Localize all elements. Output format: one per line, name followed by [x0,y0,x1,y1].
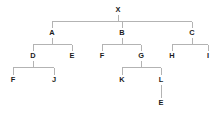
tree-node-e-n5[interactable]: E [70,51,75,60]
tree-node-l-n13[interactable]: L [159,75,164,84]
tree-node-e-n14[interactable]: E [159,98,164,107]
tree-node-b-n2[interactable]: B [119,28,124,37]
tree-node-j-n11[interactable]: J [52,75,56,84]
edges-layer [13,15,208,99]
tree-node-i-n9[interactable]: I [207,51,209,60]
tree-node-h-n8[interactable]: H [169,51,174,60]
tree-node-d-n4[interactable]: D [30,51,36,60]
nodes-layer: XABCDEFGHIFJKLE [11,5,209,107]
tree-node-a-n1[interactable]: A [49,28,55,37]
tree-node-k-n12[interactable]: K [119,75,125,84]
tree-node-f-n10[interactable]: F [11,75,16,84]
tree-node-x-n0[interactable]: X [116,5,121,14]
tree-node-f-n6[interactable]: F [100,51,105,60]
tree-diagram: XABCDEFGHIFJKLE [0,0,222,116]
tree-diagram-canvas: XABCDEFGHIFJKLE [0,0,222,116]
tree-node-g-n7[interactable]: G [138,51,144,60]
tree-node-c-n3[interactable]: C [189,28,195,37]
